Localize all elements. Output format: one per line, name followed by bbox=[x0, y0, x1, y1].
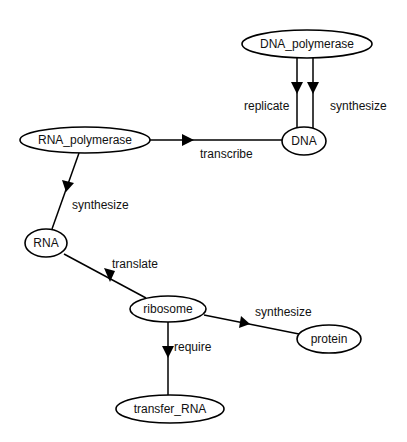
arrow-head bbox=[239, 316, 250, 328]
edge-label-synthesize-protein: synthesize bbox=[255, 305, 312, 319]
edge-transcribe bbox=[150, 134, 282, 146]
edge-replicate bbox=[291, 58, 303, 128]
node-transfer-rna[interactable]: transfer_RNA bbox=[116, 395, 224, 423]
arrow-head bbox=[307, 82, 319, 94]
node-label: RNA_polymerase bbox=[38, 133, 132, 147]
node-label: protein bbox=[311, 332, 348, 346]
graph-canvas: replicate synthesize transcribe synthesi… bbox=[0, 0, 407, 442]
node-label: DNA_polymerase bbox=[260, 37, 354, 51]
edge-label-synthesize-rna: synthesize bbox=[72, 198, 129, 212]
node-rna-polymerase[interactable]: RNA_polymerase bbox=[20, 127, 150, 153]
edge-label-translate: translate bbox=[112, 257, 158, 271]
arrow-head bbox=[162, 346, 174, 358]
edge-synthesize-dna bbox=[307, 58, 319, 128]
node-ribosome[interactable]: ribosome bbox=[130, 296, 206, 322]
edge-label-replicate: replicate bbox=[244, 99, 290, 113]
edge-label-require: require bbox=[174, 340, 212, 354]
edge-label-transcribe: transcribe bbox=[200, 147, 253, 161]
node-label: transfer_RNA bbox=[134, 402, 207, 416]
edge-label-synthesize-dna: synthesize bbox=[330, 99, 387, 113]
node-dna-polymerase[interactable]: DNA_polymerase bbox=[242, 30, 372, 58]
node-dna[interactable]: DNA bbox=[282, 127, 326, 155]
edge-synthesize-rna bbox=[52, 153, 79, 229]
node-label: RNA bbox=[33, 236, 58, 250]
arrow-head bbox=[62, 180, 74, 192]
arrow-head bbox=[182, 134, 194, 146]
node-protein[interactable]: protein bbox=[297, 325, 361, 353]
arrow-head bbox=[291, 82, 303, 94]
node-label: DNA bbox=[291, 134, 316, 148]
node-label: ribosome bbox=[143, 302, 193, 316]
edge-require bbox=[162, 322, 174, 395]
node-rna[interactable]: RNA bbox=[25, 229, 67, 257]
